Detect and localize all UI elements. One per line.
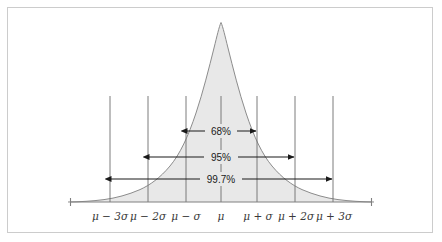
tick-label-plus-2-sigma: μ + 2σ [278, 210, 315, 222]
annotation-label-68: 68% [211, 126, 231, 137]
annotation-band-95: 95% [149, 150, 294, 164]
x-axis-tick-labels: μ − 3σ μ − 2σ μ − σ μ μ + σ μ + 2σ μ + 3… [92, 210, 353, 222]
tick-label-minus-3-sigma: μ − 3σ [92, 210, 129, 222]
tick-label-plus-1-sigma: μ + σ [243, 210, 273, 222]
annotation-label-95: 95% [211, 152, 231, 163]
tick-label-minus-1-sigma: μ − σ [171, 210, 201, 222]
tick-label-plus-3-sigma: μ + 3σ [316, 210, 353, 222]
tick-label-minus-2-sigma: μ − 2σ [130, 210, 167, 222]
empirical-rule-figure: 68% 95% 99.7% μ − 3σ μ − 2σ μ − σ μ μ + … [0, 0, 442, 242]
tick-label-mu: μ [218, 210, 225, 222]
normal-distribution-plot: 68% 95% 99.7% μ − 3σ μ − 2σ μ − σ μ μ + … [0, 0, 442, 242]
annotation-band-997: 99.7% [111, 172, 332, 186]
annotation-label-997: 99.7% [207, 174, 235, 185]
